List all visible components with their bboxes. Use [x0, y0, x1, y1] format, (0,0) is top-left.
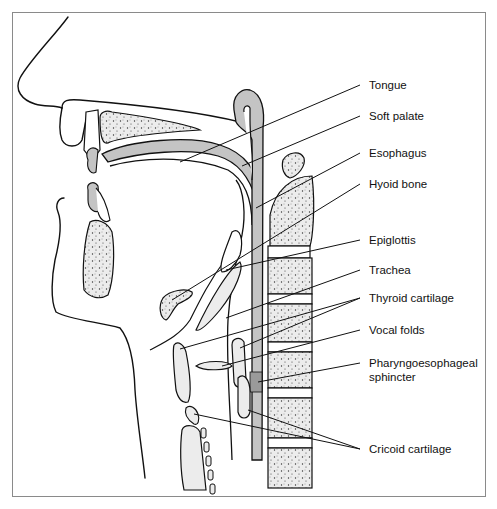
upper-lip — [60, 108, 86, 146]
atlas — [282, 153, 304, 178]
label-vocal-folds: Vocal folds — [369, 323, 425, 337]
hard-palate-bone — [100, 111, 200, 143]
label-sphincter: sphincter — [369, 370, 416, 384]
label-esophagus: Esophagus — [369, 146, 427, 160]
label-tongue: Tongue — [369, 78, 407, 92]
vertebra-c7 — [268, 448, 312, 488]
cricoid-anterior — [185, 406, 198, 424]
leader-lines — [172, 85, 360, 449]
label-hyoid-bone: Hyoid bone — [369, 177, 427, 191]
label-epiglottis: Epiglottis — [369, 233, 416, 247]
soft-palate — [102, 140, 262, 200]
label-trachea: Trachea — [369, 263, 411, 277]
mandible — [83, 220, 113, 297]
vertebra-c3 — [268, 258, 312, 294]
label-thyroid-cartilage: Thyroid cartilage — [369, 291, 454, 305]
vertebra-c6 — [268, 398, 312, 438]
vertebra-c5 — [268, 352, 312, 388]
hyoid — [160, 290, 192, 320]
vertebra-c4 — [268, 304, 312, 342]
label-soft-palate: Soft palate — [369, 109, 424, 123]
upper-tooth — [87, 148, 98, 173]
lower-lip — [96, 188, 110, 222]
disc-3 — [268, 342, 312, 352]
arytenoid — [238, 376, 250, 418]
leader-hyoid-bone — [172, 184, 360, 300]
nose-profile — [18, 17, 68, 108]
anatomy-illustration — [0, 0, 497, 509]
disc-5 — [268, 438, 312, 448]
label-pharyngoesophageal: Pharyngoesophageal — [369, 356, 478, 370]
leader-tongue — [180, 85, 360, 162]
disc-4 — [268, 388, 312, 398]
vocal-fold — [196, 362, 232, 370]
label-cricoid-cartilage: Cricoid cartilage — [369, 442, 451, 456]
thyroid-anterior — [173, 343, 190, 402]
tongue-surface — [110, 159, 252, 225]
